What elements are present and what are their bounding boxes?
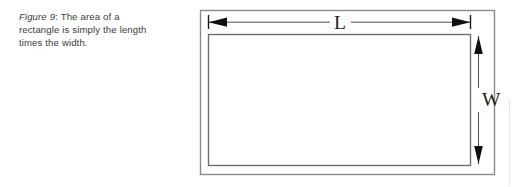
width-label: W [482, 89, 501, 110]
figure-number-label: Figure 9 [19, 11, 55, 22]
length-label: L [334, 12, 346, 33]
page-edge-line [509, 100, 510, 186]
figure-page: Figure 9: The area of a rectangle is sim… [0, 0, 514, 187]
figure-caption: Figure 9: The area of a rectangle is sim… [19, 11, 159, 50]
inner-rectangle [209, 35, 471, 166]
rectangle-diagram: L W [196, 4, 514, 184]
